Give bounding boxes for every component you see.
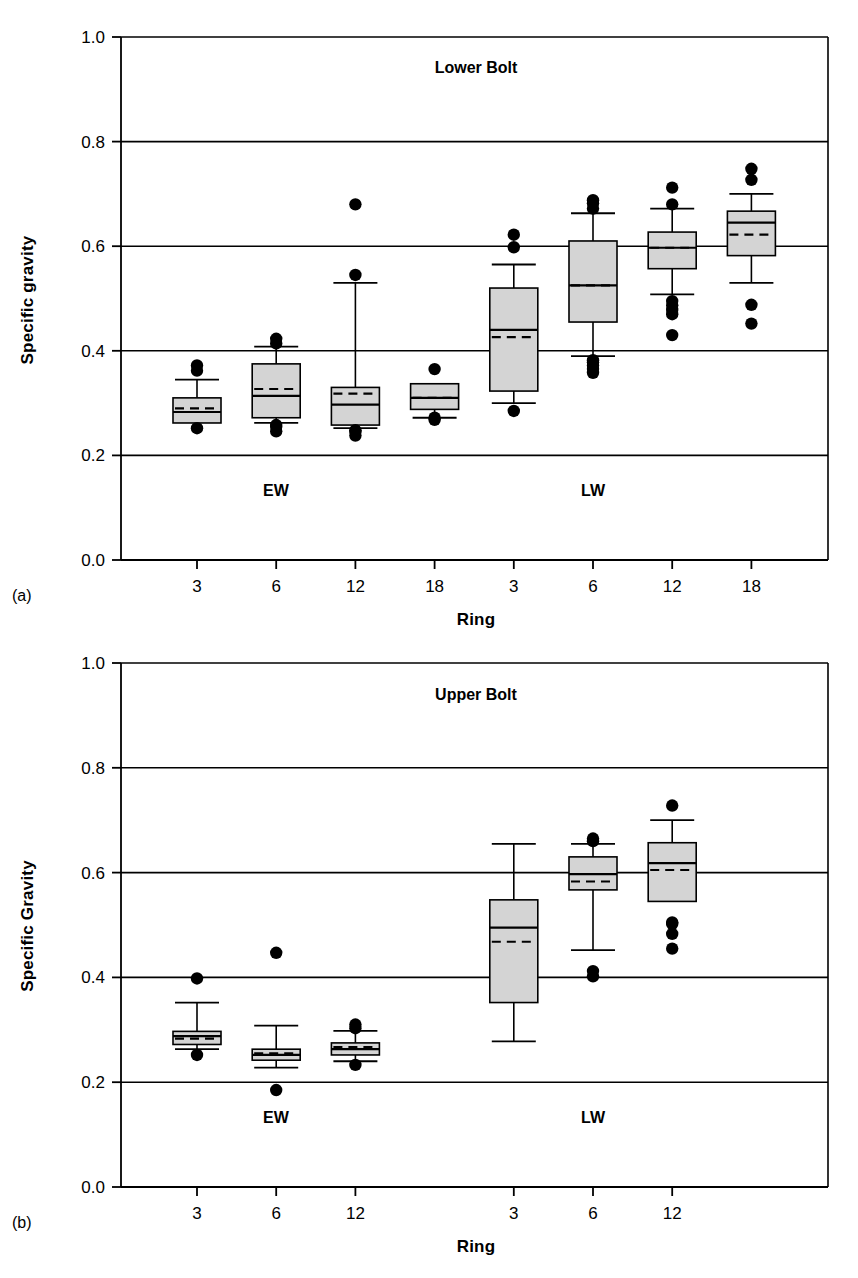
x-ticks-a: 361218361218 <box>192 560 761 596</box>
x-tick-label: 12 <box>663 1204 682 1223</box>
y-tick-label: 0.6 <box>81 864 105 883</box>
outlier-point <box>349 424 361 436</box>
outlier-point <box>191 1049 203 1061</box>
outlier-point <box>587 194 599 206</box>
boxplot-lw-ring-12 <box>648 799 696 954</box>
x-tick-label: 3 <box>192 577 201 596</box>
outlier-point <box>745 317 757 329</box>
outlier-point <box>349 1018 361 1030</box>
group-label-ew-b: EW <box>263 1109 290 1126</box>
group-label-ew-a: EW <box>263 482 290 499</box>
y-tick-label: 0.4 <box>81 342 105 361</box>
box-body <box>648 843 696 902</box>
x-tick-label: 18 <box>425 577 444 596</box>
y-tick-label: 0.8 <box>81 133 105 152</box>
plot-title-a: Lower Bolt <box>435 59 518 76</box>
panel-upper-bolt: 0.00.20.40.60.81.0 36123612 Upper Bolt E… <box>0 626 858 1278</box>
panel-lower-bolt: 0.00.20.40.60.81.0 361218361218 Lower Bo… <box>0 0 858 640</box>
figure-root: 0.00.20.40.60.81.0 361218361218 Lower Bo… <box>0 0 858 1278</box>
boxplots-b <box>173 799 696 1096</box>
box-body <box>252 364 300 418</box>
box-body <box>173 398 221 423</box>
group-label-lw-b: LW <box>581 1109 606 1126</box>
outlier-point <box>428 412 440 424</box>
outlier-point <box>666 942 678 954</box>
boxplot-lw-ring-18 <box>727 163 775 330</box>
x-tick-label: 6 <box>588 1204 597 1223</box>
outlier-point <box>666 295 678 307</box>
outlier-point <box>745 163 757 175</box>
y-tick-label: 0.2 <box>81 446 105 465</box>
boxplot-ew-ring-6 <box>252 333 300 438</box>
panel-tag-a: (a) <box>12 587 32 604</box>
gridlines-b <box>121 663 828 1187</box>
outlier-point <box>270 1084 282 1096</box>
outlier-point <box>428 363 440 375</box>
x-ticks-b: 36123612 <box>192 1187 681 1223</box>
box-body <box>727 211 775 255</box>
panel-tag-b: (b) <box>12 1214 32 1231</box>
outlier-point <box>270 333 282 345</box>
outlier-point <box>666 181 678 193</box>
panel-b-svg: 0.00.20.40.60.81.0 36123612 Upper Bolt E… <box>0 626 858 1278</box>
outlier-point <box>666 799 678 811</box>
outlier-point <box>666 916 678 928</box>
x-tick-label: 12 <box>663 577 682 596</box>
outlier-point <box>587 354 599 366</box>
y-axis-title-a: Specific gravity <box>18 235 37 364</box>
outlier-point <box>508 241 520 253</box>
y-tick-label: 0.0 <box>81 551 105 570</box>
x-tick-label: 12 <box>346 577 365 596</box>
y-axis-title-b: Specific Gravity <box>18 860 37 992</box>
outlier-point <box>745 299 757 311</box>
gridlines-a <box>121 37 828 560</box>
outlier-point <box>191 359 203 371</box>
box-body <box>490 288 538 391</box>
boxplot-ew-ring-18 <box>411 363 459 426</box>
x-tick-label: 3 <box>192 1204 201 1223</box>
y-tick-label: 1.0 <box>81 28 105 47</box>
x-tick-label: 12 <box>346 1204 365 1223</box>
box-body <box>648 232 696 269</box>
y-tick-label: 0.6 <box>81 237 105 256</box>
x-tick-label: 3 <box>509 577 518 596</box>
axes-a <box>121 37 828 560</box>
y-tick-label: 1.0 <box>81 654 105 673</box>
boxplot-lw-ring-6 <box>569 832 617 982</box>
y-tick-label: 0.8 <box>81 759 105 778</box>
boxplot-ew-ring-3 <box>173 359 221 434</box>
outlier-point <box>587 832 599 844</box>
outlier-point <box>349 269 361 281</box>
panel-a-svg: 0.00.20.40.60.81.0 361218361218 Lower Bo… <box>0 0 858 640</box>
boxplot-lw-ring-3 <box>490 844 538 1042</box>
y-tick-label: 0.0 <box>81 1178 105 1197</box>
boxplot-ew-ring-6 <box>252 947 300 1097</box>
y-ticks-b: 0.00.20.40.60.81.0 <box>81 654 121 1197</box>
y-tick-label: 0.4 <box>81 968 105 987</box>
box-body <box>411 384 459 410</box>
outlier-point <box>349 198 361 210</box>
x-tick-label: 6 <box>271 1204 280 1223</box>
group-label-lw-a: LW <box>581 482 606 499</box>
boxplot-ew-ring-12 <box>331 1018 379 1071</box>
outlier-point <box>508 405 520 417</box>
x-tick-label: 3 <box>509 1204 518 1223</box>
outlier-point <box>191 972 203 984</box>
outlier-point <box>270 419 282 431</box>
box-body <box>569 241 617 322</box>
outlier-point <box>666 198 678 210</box>
outlier-point <box>270 947 282 959</box>
outlier-point <box>349 1059 361 1071</box>
x-tick-label: 6 <box>271 577 280 596</box>
outlier-point <box>745 174 757 186</box>
boxplots-a <box>173 163 775 442</box>
plot-title-b: Upper Bolt <box>435 686 517 703</box>
box-body <box>490 900 538 1003</box>
x-tick-label: 6 <box>588 577 597 596</box>
y-ticks-a: 0.00.20.40.60.81.0 <box>81 28 121 570</box>
boxplot-lw-ring-12 <box>648 181 696 341</box>
boxplot-ew-ring-3 <box>173 972 221 1061</box>
x-tick-label: 18 <box>742 577 761 596</box>
outlier-point <box>191 422 203 434</box>
y-tick-label: 0.2 <box>81 1073 105 1092</box>
